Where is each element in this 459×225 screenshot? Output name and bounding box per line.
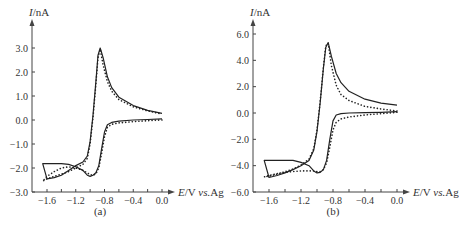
panel-label: (a)	[94, 205, 107, 218]
x-tick-label: 0.0	[391, 195, 404, 206]
y-tick-label: −1.0	[10, 139, 28, 150]
x-axis-arrow-icon	[403, 190, 410, 195]
y-tick-label: −4.0	[231, 160, 249, 171]
y-tick-label: 4.0	[237, 55, 250, 66]
x-tick-label: −1.6	[38, 195, 56, 206]
experimental-curve	[43, 48, 162, 179]
cv-figure: 3.02.01.00.0−1.0−2.0−3.0−1.6−1.2−0.8−0.4…	[0, 0, 459, 225]
x-axis-arrow-icon	[168, 190, 175, 195]
panel-label: (b)	[327, 205, 340, 218]
y-tick-label: 1.0	[16, 91, 29, 102]
y-tick-label: −3.0	[10, 187, 28, 198]
x-axis-title: E/V vs.Ag	[177, 186, 224, 198]
y-tick-label: 6.0	[237, 29, 250, 40]
x-tick-label: −1.2	[67, 195, 85, 206]
y-tick-label: −6.0	[231, 187, 249, 198]
y-tick-label: −2.0	[10, 163, 28, 174]
x-tick-label: −0.4	[356, 195, 374, 206]
simulated-curve	[264, 43, 397, 177]
x-tick-label: 0.0	[156, 195, 169, 206]
y-tick-label: 0.0	[237, 108, 250, 119]
y-axis-arrow-icon	[30, 19, 35, 26]
x-axis-title: E/V vs.Ag	[412, 186, 459, 198]
y-tick-label: 3.0	[16, 43, 29, 54]
y-tick-label: 2.0	[237, 81, 250, 92]
y-tick-label: 2.0	[16, 67, 29, 78]
x-tick-label: −1.6	[260, 195, 278, 206]
x-tick-label: −1.2	[292, 195, 310, 206]
y-axis-title: I/nA	[28, 6, 49, 18]
x-tick-label: −0.4	[124, 195, 142, 206]
y-axis-title: I/nA	[249, 6, 270, 18]
y-tick-label: −2.0	[231, 134, 249, 145]
chart-panel-b: 6.04.02.00.0−2.0−4.0−6.0−1.6−1.2−0.8−0.4…	[231, 6, 459, 218]
simulated-curve	[43, 49, 162, 181]
chart-panel-a: 3.02.01.00.0−1.0−2.0−3.0−1.6−1.2−0.8−0.4…	[10, 6, 224, 218]
y-tick-label: 0.0	[16, 115, 29, 126]
y-axis-arrow-icon	[251, 19, 256, 26]
